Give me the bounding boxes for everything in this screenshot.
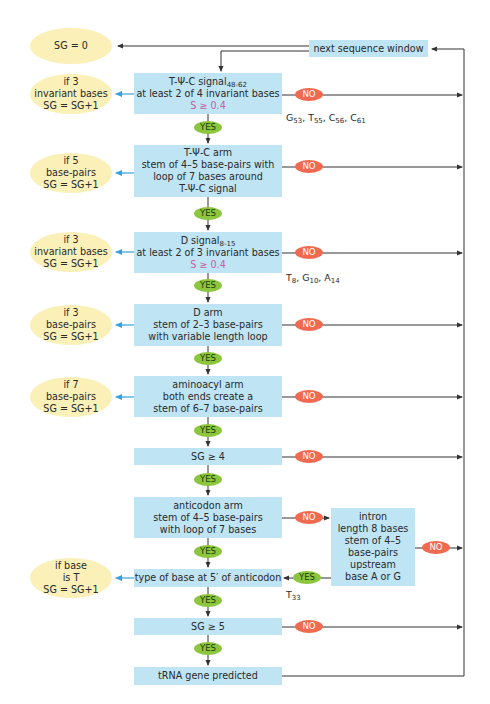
- sg-threshold-4-label: SG ≥ 4: [191, 451, 225, 463]
- intron-title: intron: [359, 511, 387, 523]
- d-signal-criteria: at least 2 of 3 invariant bases: [136, 247, 279, 259]
- d-signal-node: D signal8-15 at least 2 of 3 invariant b…: [134, 232, 282, 273]
- step-line: stem of 6–7 base-pairs: [153, 403, 262, 415]
- yes-badge: YES: [194, 424, 222, 437]
- step-line: with loop of 7 bases: [160, 524, 256, 536]
- intron-line: base-pairs: [348, 547, 398, 559]
- side-line: SG = SG+1: [43, 258, 98, 270]
- side-line: if 5: [63, 155, 78, 167]
- side-line: SG = SG+1: [43, 100, 98, 112]
- step-line: stem of 2–3 base-pairs: [153, 319, 262, 331]
- side-line: if base: [55, 560, 87, 572]
- yes-badge: YES: [194, 352, 222, 365]
- aminoacyl-arm-title: aminoacyl arm: [172, 379, 243, 391]
- no-badge: NO: [295, 88, 323, 101]
- sg-threshold-4-node: SG ≥ 4: [134, 448, 282, 465]
- no-badge: NO: [295, 390, 323, 403]
- trna-predicted-node: tRNA gene predicted: [134, 667, 282, 685]
- side-line: SG = SG+1: [43, 403, 98, 415]
- d-invariant-bases-note: T8, G10, A14: [286, 272, 340, 283]
- intron-line: upstream: [350, 559, 396, 571]
- base-type-score-node: if base is T SG = SG+1: [30, 558, 112, 598]
- d-arm-title: D arm: [193, 307, 222, 319]
- side-line: invariant bases: [34, 88, 108, 100]
- anticodon-arm-title: anticodon arm: [173, 500, 243, 512]
- base-type-label: type of base at 5′ of anticodon: [135, 572, 282, 584]
- next-window-node: next sequence window: [309, 40, 428, 57]
- step-line: T-Ψ-C signal: [179, 183, 237, 195]
- side-line: SG = SG+1: [43, 584, 98, 596]
- base-type-node: type of base at 5′ of anticodon: [134, 569, 282, 587]
- trna-predicted-label: tRNA gene predicted: [158, 670, 258, 682]
- d-signal-score: S ≥ 0.4: [190, 259, 226, 271]
- yes-badge: YES: [194, 594, 222, 607]
- side-line: if 3: [63, 307, 78, 319]
- d-signal-title: D signal: [181, 235, 220, 246]
- side-line: base-pairs: [46, 391, 96, 403]
- step-line: stem of 4–5 base-pairs: [153, 512, 262, 524]
- intron-node: intron length 8 bases stem of 4–5 base-p…: [331, 508, 415, 586]
- yes-badge: YES: [293, 571, 321, 584]
- yes-badge: YES: [194, 207, 222, 220]
- no-badge: NO: [295, 511, 323, 524]
- tpsic-signal-title: T-Ψ-C signal: [169, 76, 227, 87]
- side-line: if 3: [63, 234, 78, 246]
- anticodon-arm-node: anticodon arm stem of 4–5 base-pairs wit…: [134, 497, 282, 538]
- side-line: SG = SG+1: [43, 179, 98, 191]
- tpsic-invariant-bases-note: G53, T55, C56, C61: [286, 112, 366, 123]
- tpsic-arm-score-node: if 5 base-pairs SG = SG+1: [30, 153, 112, 193]
- aminoacyl-arm-score-node: if 7 base-pairs SG = SG+1: [30, 377, 112, 417]
- no-badge: NO: [295, 160, 323, 173]
- yes-badge: YES: [194, 473, 222, 486]
- side-line: is T: [63, 572, 80, 584]
- tpsic-signal-node: T-Ψ-C signal48-62 at least 2 of 4 invari…: [134, 73, 282, 114]
- sg-threshold-5-label: SG ≥ 5: [191, 621, 225, 633]
- tpsic-signal-criteria: at least 2 of 4 invariant bases: [136, 88, 279, 100]
- next-window-label: next sequence window: [314, 43, 424, 55]
- sg-threshold-5-node: SG ≥ 5: [134, 618, 282, 635]
- tpsic-signal-score: S ≥ 0.4: [190, 100, 226, 112]
- tpsic-arm-title: T-Ψ-C arm: [184, 147, 232, 159]
- no-badge: NO: [295, 450, 323, 463]
- yes-badge: YES: [194, 545, 222, 558]
- yes-badge: YES: [194, 642, 222, 655]
- no-badge: NO: [422, 541, 450, 554]
- step-line: both ends create a: [163, 391, 253, 403]
- tpsic-signal-score-node: if 3 invariant bases SG = SG+1: [30, 74, 112, 114]
- step-line: with variable length loop: [148, 331, 267, 343]
- side-line: invariant bases: [34, 246, 108, 258]
- side-line: if 3: [63, 76, 78, 88]
- intron-line: length 8 bases: [338, 523, 409, 535]
- yes-badge: YES: [194, 121, 222, 134]
- no-badge: NO: [295, 246, 323, 259]
- d-arm-node: D arm stem of 2–3 base-pairs with variab…: [134, 304, 282, 346]
- intron-base-note: T33: [286, 589, 301, 600]
- side-line: if 7: [63, 379, 78, 391]
- aminoacyl-arm-node: aminoacyl arm both ends create a stem of…: [134, 376, 282, 417]
- side-line: base-pairs: [46, 167, 96, 179]
- sg-zero-label: SG = 0: [54, 40, 88, 52]
- step-line: loop of 7 bases around: [153, 171, 263, 183]
- no-badge: NO: [295, 318, 323, 331]
- sg-zero-node: SG = 0: [30, 28, 112, 64]
- side-line: base-pairs: [46, 319, 96, 331]
- yes-badge: YES: [194, 279, 222, 292]
- intron-line: stem of 4–5: [345, 535, 401, 547]
- d-arm-score-node: if 3 base-pairs SG = SG+1: [30, 305, 112, 345]
- no-badge: NO: [295, 620, 323, 633]
- side-line: SG = SG+1: [43, 331, 98, 343]
- tpsic-arm-node: T-Ψ-C arm stem of 4–5 base-pairs with lo…: [134, 145, 282, 197]
- d-signal-score-node: if 3 invariant bases SG = SG+1: [30, 232, 112, 272]
- step-line: stem of 4–5 base-pairs with: [142, 159, 275, 171]
- intron-line: base A or G: [345, 571, 401, 583]
